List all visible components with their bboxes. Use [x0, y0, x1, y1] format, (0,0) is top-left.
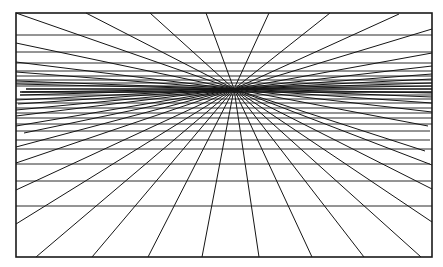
- perspective-ray-line: [234, 13, 269, 89]
- perspective-ray-line: [234, 89, 259, 257]
- perspective-grid-diagram: [0, 0, 443, 267]
- grid-lines: [16, 13, 432, 257]
- perspective-ray-line: [16, 89, 234, 224]
- perspective-ray-line: [202, 89, 234, 257]
- perspective-ray-line: [150, 13, 234, 89]
- perspective-ray-line: [16, 13, 234, 89]
- perspective-ray-line: [234, 13, 330, 89]
- perspective-ray-line: [234, 89, 421, 257]
- perspective-ray-line: [206, 13, 234, 89]
- perspective-ray-line: [86, 13, 234, 89]
- perspective-ray-line: [36, 89, 234, 257]
- perspective-ray-line: [234, 89, 432, 189]
